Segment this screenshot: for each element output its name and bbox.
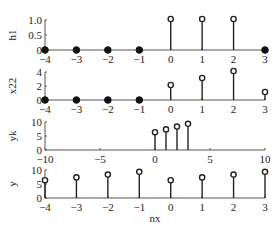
stem-marker — [137, 169, 142, 174]
x-tick-label: −5 — [94, 153, 106, 165]
stem-plot-figure: 00.51.0−4−3−2−10123h1024−4−3−2−10123x220… — [0, 0, 279, 236]
y-tick-label: 5 — [37, 130, 43, 142]
stem-marker-zero — [42, 97, 49, 104]
x-tick-label: 10 — [260, 153, 272, 165]
stem-marker — [200, 175, 205, 180]
stem-marker — [105, 172, 110, 177]
y-tick-label: 5 — [37, 178, 43, 190]
x-tick-label: 1 — [199, 53, 205, 65]
y-axis-label: y — [6, 181, 18, 187]
y-tick-label: 2 — [37, 80, 43, 92]
x-tick-label: −3 — [71, 103, 83, 115]
stem-marker-zero — [105, 47, 112, 54]
stem-marker — [262, 169, 267, 174]
x-tick-label: −1 — [133, 53, 145, 65]
x-tick-label: −4 — [39, 201, 51, 213]
x-tick-label: −1 — [133, 201, 145, 213]
stem-marker-zero — [73, 97, 80, 104]
stem-marker — [262, 89, 267, 94]
stem-marker — [200, 16, 205, 21]
x-tick-label: 2 — [231, 53, 237, 65]
x-tick-label: −2 — [102, 103, 114, 115]
y-tick-label: 10 — [31, 164, 43, 176]
stem-marker — [168, 82, 173, 87]
stem-marker-zero — [136, 97, 143, 104]
x-tick-label: 3 — [262, 201, 268, 213]
y-tick-label: 4 — [37, 66, 43, 78]
stem-marker-zero — [136, 47, 143, 54]
stem-marker — [174, 124, 179, 129]
x-tick-label: 2 — [231, 201, 237, 213]
stem-marker — [231, 16, 236, 21]
x-tick-label: −3 — [71, 201, 83, 213]
stem-marker — [168, 178, 173, 183]
x-tick-label: 0 — [168, 53, 174, 65]
stem-marker-zero — [105, 97, 112, 104]
x-tick-label: 5 — [207, 153, 213, 165]
stem-marker — [231, 68, 236, 73]
stem-marker-zero — [42, 47, 49, 54]
x-tick-label: 2 — [231, 103, 237, 115]
x-tick-label: −4 — [39, 103, 51, 115]
y-tick-label: 1.0 — [28, 14, 42, 26]
stem-marker — [42, 178, 47, 183]
stem-marker — [168, 16, 173, 21]
stem-marker — [231, 172, 236, 177]
x-tick-label: 0 — [152, 153, 158, 165]
x-tick-label: 0 — [168, 103, 174, 115]
stem-marker — [74, 175, 79, 180]
stem-marker — [185, 121, 190, 126]
x-tick-label: 1 — [199, 103, 205, 115]
stem-marker — [200, 75, 205, 80]
x-tick-label: −4 — [39, 53, 51, 65]
x-tick-label: 1 — [199, 201, 205, 213]
x-tick-label: −2 — [102, 53, 114, 65]
x-tick-label: −3 — [71, 53, 83, 65]
y-axis-label: x22 — [6, 78, 18, 95]
stem-marker-zero — [73, 47, 80, 54]
stem-marker-zero — [262, 47, 269, 54]
x-tick-label: −1 — [133, 103, 145, 115]
y-tick-label: 0.5 — [28, 29, 42, 41]
y-axis-label: yk — [6, 130, 18, 142]
y-tick-label: 10 — [31, 116, 43, 128]
stem-marker — [152, 130, 157, 135]
x-tick-label: −2 — [102, 201, 114, 213]
y-axis-label: h1 — [6, 30, 18, 41]
x-tick-label: 0 — [168, 201, 174, 213]
x-axis-label: nx — [150, 212, 162, 224]
stem-marker — [163, 127, 168, 132]
x-tick-label: 3 — [262, 103, 268, 115]
x-tick-label: 3 — [262, 53, 268, 65]
